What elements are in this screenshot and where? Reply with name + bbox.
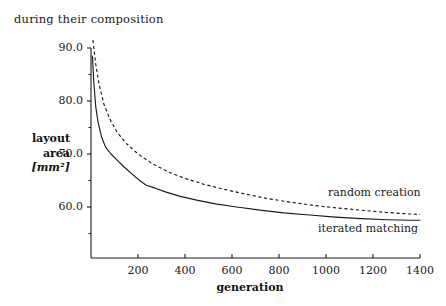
y-axis-title-line1: layout [8, 132, 70, 147]
x-tick-label: 800 [257, 264, 301, 277]
y-axis-title: layout area [mm²] [8, 132, 70, 176]
series-label-random-creation: random creation [328, 186, 421, 199]
chart-page: during their composition 60.070.080.090.… [0, 0, 446, 306]
y-tick-label: 90.0 [37, 41, 83, 54]
x-tick-label: 600 [210, 264, 254, 277]
x-tick-label: 400 [163, 264, 207, 277]
x-axis-title: generation [27, 281, 446, 294]
x-tick-label: 1400 [398, 264, 442, 277]
x-tick-label: 1200 [351, 264, 395, 277]
y-axis-title-line2: area [8, 147, 70, 162]
x-tick-label: 1000 [304, 264, 348, 277]
y-tick-label: 60.0 [37, 200, 83, 213]
x-tick-label: 200 [116, 264, 160, 277]
y-axis-title-unit: [mm²] [8, 161, 70, 176]
y-tick-label: 80.0 [37, 94, 83, 107]
series-label-iterated-matching: iterated matching [318, 222, 418, 235]
